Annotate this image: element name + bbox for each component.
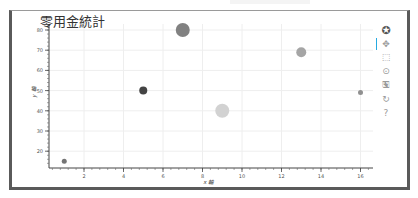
x-tick-label: 16	[357, 173, 363, 179]
chart-title: 零用金統計	[40, 11, 105, 30]
x-tick-label: 4	[122, 173, 125, 179]
y-tick-label: 60	[37, 67, 43, 73]
data-point[interactable]	[296, 47, 306, 57]
x-tick-label: 2	[82, 173, 85, 179]
pan-tool-icon[interactable]: ✥	[378, 38, 394, 50]
data-point[interactable]	[139, 87, 147, 95]
y-tick-label: 20	[37, 148, 43, 154]
data-point[interactable]	[176, 23, 190, 37]
data-point[interactable]	[62, 159, 67, 164]
y-tick-label: 40	[37, 108, 43, 114]
bokeh-logo-icon: ✪	[378, 24, 394, 36]
y-tick-label: 70	[37, 47, 43, 53]
box-zoom-tool-icon[interactable]: ⬚	[378, 51, 394, 63]
data-point[interactable]	[358, 90, 363, 95]
x-tick-label: 10	[239, 173, 245, 179]
data-point[interactable]	[215, 104, 229, 118]
x-axis-label: x 軸	[202, 179, 214, 185]
y-tick-label: 50	[37, 88, 43, 94]
help-tool-icon[interactable]: ?	[378, 107, 394, 119]
x-tick-label: 12	[278, 173, 284, 179]
x-tick-label: 6	[161, 173, 164, 179]
y-tick-label: 30	[37, 128, 43, 134]
y-axis-label: y 軸	[31, 86, 38, 98]
x-tick-label: 14	[318, 173, 324, 179]
save-tool-icon[interactable]: 🖫	[378, 79, 394, 91]
reset-tool-icon[interactable]: ↻	[378, 93, 394, 105]
wheel-zoom-tool-icon[interactable]: ⊙	[378, 65, 394, 77]
